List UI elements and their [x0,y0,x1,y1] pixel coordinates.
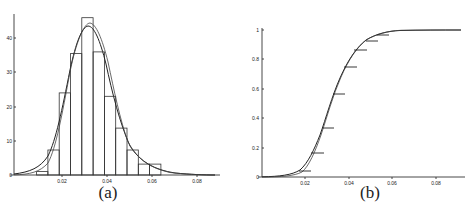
panel-a-ytick-0: 0 [9,172,12,178]
density-curve-1 [14,26,215,175]
panel-b-ytick-1: 1 [256,27,259,33]
panel-b-caption: (b) [360,183,380,202]
panel-a-ytick-10: 10 [6,138,12,144]
hist-bar [104,96,115,175]
panel-a-histogram: 0 10 20 30 40 0.02 0.04 0.06 0.08 [6,14,220,202]
cdf-curve-2 [262,30,461,177]
panel-a-ytick-40: 40 [6,35,12,41]
panel-b-ytick-02: 0.2 [252,145,259,151]
panel-b-xtick-008: 0.08 [431,180,441,186]
figure: 0 10 20 30 40 0.02 0.04 0.06 0.08 [0,0,470,208]
panel-a-xtick-002: 0.02 [57,178,67,184]
panel-b-xtick-002: 0.02 [300,180,310,186]
panel-a-caption: (a) [99,183,118,202]
hist-bar [138,164,149,175]
hist-bar [37,172,48,175]
panel-b-xtick-004: 0.04 [344,180,354,186]
cdf-curve-1 [262,30,461,177]
panel-a-xtick-008: 0.08 [192,178,202,184]
panel-b-ytick-08: 0.8 [252,56,259,62]
hist-bar [93,52,104,175]
panel-b-xtick-006: 0.06 [387,180,397,186]
panel-b-ytick-04: 0.4 [252,115,259,121]
panel-a-xtick-006: 0.06 [147,178,157,184]
hist-bar [59,93,70,175]
panel-b-cdf: 0 0.2 0.4 0.6 0.8 1 0.02 0.04 0.06 0.08 … [252,27,465,202]
hist-bar [127,150,138,175]
ecdf-markers [299,35,389,171]
panel-b-ytick-0: 0 [256,174,259,180]
panel-a-ytick-20: 20 [6,104,12,110]
hist-bar [71,54,82,175]
hist-bar [82,18,93,175]
panel-b-ytick-06: 0.6 [252,86,259,92]
panel-a-ytick-30: 30 [6,69,12,75]
